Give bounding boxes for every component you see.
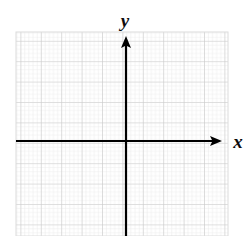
coordinate-plane-svg: y x — [0, 0, 251, 236]
y-axis-label: y — [119, 10, 130, 31]
x-axis-label: x — [232, 131, 243, 152]
grid-area — [16, 32, 228, 236]
gridlines — [16, 32, 228, 236]
coordinate-grid-figure: y x — [0, 0, 251, 236]
